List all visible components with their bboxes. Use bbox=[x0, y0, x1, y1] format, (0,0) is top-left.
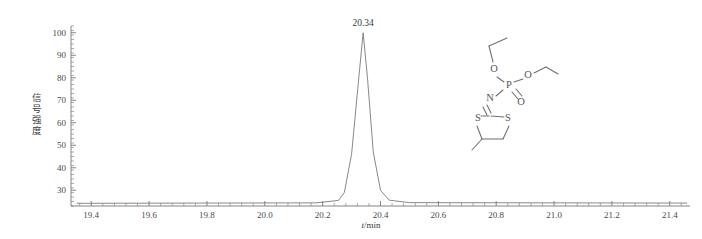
x-axis-tick-labels: 19.419.619.820.020.220.420.620.821.021.2… bbox=[83, 210, 678, 220]
bond-c4-methyl bbox=[472, 139, 482, 150]
x-tick-label: 21.4 bbox=[662, 210, 678, 220]
atom-label-s-5: S bbox=[475, 112, 481, 123]
y-tick-label: 50 bbox=[57, 140, 67, 150]
x-tick-label: 20.2 bbox=[315, 210, 331, 220]
molecule-atom-labels: OOPONSS bbox=[475, 63, 532, 123]
bond-ethyl-right-terminal bbox=[546, 67, 558, 74]
bond-p-n bbox=[496, 90, 503, 96]
bond-p-o-right bbox=[514, 79, 523, 82]
y-axis-title: 信号强度 bbox=[32, 92, 42, 136]
x-tick-label: 20.0 bbox=[257, 210, 273, 220]
bond-ethyl-left-terminal bbox=[489, 38, 507, 46]
y-tick-label: 80 bbox=[57, 73, 67, 83]
bond-o-left-p bbox=[497, 77, 504, 82]
bond-s-left-c4 bbox=[477, 126, 482, 139]
atom-label-o-3: O bbox=[517, 96, 525, 107]
y-tick-label: 70 bbox=[57, 95, 67, 105]
x-tick-label: 21.0 bbox=[546, 210, 562, 220]
x-tick-label: 19.4 bbox=[83, 210, 99, 220]
x-tick-label: 20.4 bbox=[373, 210, 389, 220]
y-axis-title-group: 信号强度 bbox=[32, 92, 42, 136]
y-axis-ticks bbox=[71, 26, 76, 206]
peak-retention-time-label: 20.34 bbox=[352, 18, 374, 28]
x-axis-title-unit: /min bbox=[364, 220, 381, 230]
x-axis-title: t/min bbox=[361, 220, 381, 230]
atom-label-o-0: O bbox=[490, 63, 498, 74]
x-tick-label: 19.8 bbox=[199, 210, 215, 220]
y-tick-label: 100 bbox=[53, 28, 67, 38]
x-tick-label: 19.6 bbox=[141, 210, 157, 220]
chemical-structure-diagram: OOPONSS bbox=[472, 38, 558, 150]
bond-n-double-c-a bbox=[487, 105, 491, 113]
bond-s-right-c5 bbox=[503, 126, 509, 139]
atom-label-n-4: N bbox=[486, 92, 494, 103]
y-tick-label: 90 bbox=[57, 50, 67, 60]
chromatogram-trace bbox=[77, 33, 687, 204]
y-axis-tick-labels: 30405060708090100 bbox=[53, 28, 67, 196]
bond-n-double-c-b bbox=[483, 107, 487, 115]
y-tick-label: 40 bbox=[57, 163, 67, 173]
atom-label-o-1: O bbox=[524, 69, 532, 80]
bond-ethyl-left-ch2-o bbox=[489, 46, 493, 62]
x-tick-label: 20.8 bbox=[488, 210, 504, 220]
atom-label-s-6: S bbox=[505, 112, 511, 123]
bond-c2-s-right bbox=[491, 116, 504, 117]
bond-p-double-o-b bbox=[516, 89, 522, 96]
x-tick-label: 21.2 bbox=[604, 210, 620, 220]
chart-canvas: 30405060708090100 19.419.619.820.020.220… bbox=[0, 0, 702, 239]
y-tick-label: 30 bbox=[57, 185, 67, 195]
chromatogram-figure: 30405060708090100 19.419.619.820.020.220… bbox=[0, 0, 702, 239]
y-tick-label: 60 bbox=[57, 118, 67, 128]
atom-label-p-2: P bbox=[506, 79, 512, 90]
x-tick-label: 20.6 bbox=[430, 210, 446, 220]
bond-o-right-ch2 bbox=[534, 67, 546, 73]
